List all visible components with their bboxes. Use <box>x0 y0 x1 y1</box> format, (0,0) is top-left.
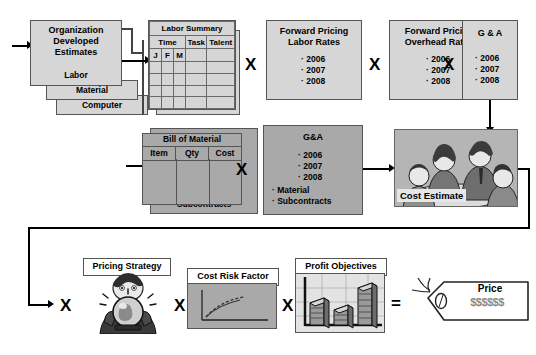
cost-estimate-label: Cost Estimate <box>397 189 466 202</box>
cost-out-v1 <box>528 168 530 228</box>
stack-connector-h2 <box>131 52 143 54</box>
card-title-line3: Estimates <box>31 47 121 58</box>
gna-top-title: G & A <box>463 28 517 39</box>
operator-multiply-2: X <box>369 55 380 75</box>
gna-mat-title: G&A <box>264 132 362 143</box>
stack-connector-h1 <box>122 28 132 30</box>
fp-labor-year-1: 2007 <box>301 65 325 76</box>
card-computer-label: Computer <box>57 100 147 110</box>
diagram-canvas: Computer Material Organization Developed… <box>0 0 536 355</box>
profit-objectives-chart <box>295 273 385 333</box>
bom-divider-1 <box>176 159 177 205</box>
gna-mat-year-0: 2006 <box>298 150 322 161</box>
fp-labor-year-2: 2008 <box>301 76 325 87</box>
gna-mat-item-1: Subcontracts <box>272 196 332 207</box>
cell-empty <box>186 49 207 62</box>
labor-summary-title: Labor Summary <box>150 22 235 36</box>
fp-labor-title-2: Labor Rates <box>267 37 361 48</box>
gna-mat-item-0: Material <box>272 185 332 196</box>
cost-out-h2 <box>28 227 530 229</box>
fp-labor-title-1: Forward Pricing <box>267 26 361 37</box>
gna-top-year-1: 2007 <box>475 64 499 75</box>
fortune-teller-crystal-ball-clipart <box>88 272 168 334</box>
operator-multiply-1: X <box>245 55 256 75</box>
box-forward-pricing-labor-rates: Forward Pricing Labor Rates 2006 2007 20… <box>266 20 362 100</box>
col-time: Time <box>150 36 186 49</box>
card-organization-developed-estimates: Organization Developed Estimates Labor <box>30 20 122 86</box>
bom-col-cost: Cost <box>209 147 241 160</box>
bom-title: Bill of Material <box>143 133 241 145</box>
operator-multiply-7: X <box>282 296 293 316</box>
cost-out-head <box>48 300 54 308</box>
price-tag-title: Price <box>455 283 525 294</box>
box-gna-material: G&A 2006 2007 2008 Material Subcontracts <box>263 125 363 215</box>
bom-header-row: Item Qty Cost <box>143 146 241 161</box>
operator-multiply-3: X <box>443 55 454 75</box>
gna-mat-year-1: 2007 <box>298 161 322 172</box>
bill-of-material-table: Bill of Material Item Qty Cost <box>142 133 242 205</box>
fp-labor-year-0: 2006 <box>301 54 325 65</box>
card-labor-label: Labor <box>31 70 121 80</box>
labor-summary-grid: Labor Summary Time Task Talent J F M <box>149 21 235 109</box>
bom-divider-2 <box>209 159 210 205</box>
cost-estimate-image: Cost Estimate <box>394 129 518 207</box>
cost-risk-factor-chart <box>187 283 277 329</box>
sub-f: F <box>162 49 174 62</box>
card-title-line1: Organization <box>31 25 121 36</box>
profit-bar-chart-icon <box>296 274 384 332</box>
risk-curve-icon <box>188 284 278 330</box>
cost-out-v2 <box>28 227 30 305</box>
sub-j: J <box>150 49 162 62</box>
gna-mat-to-cost-line <box>363 168 391 170</box>
bom-col-item: Item <box>143 147 176 160</box>
box-gna-top: G & A 2006 2007 2008 <box>462 20 518 100</box>
operator-equals: = <box>391 294 401 314</box>
gna-to-cost-estimate-line <box>489 100 491 129</box>
cell-empty <box>207 49 235 62</box>
gna-top-year-2: 2008 <box>475 75 499 86</box>
card-material-label: Material <box>47 85 137 95</box>
bom-col-qty: Qty <box>176 147 209 160</box>
fp-oh-year-2: 2008 <box>426 76 450 87</box>
input-arrow-line <box>12 45 28 47</box>
cost-out-h3 <box>28 304 50 306</box>
stack-connector-v1 <box>131 28 133 52</box>
col-talent: Talent <box>207 36 235 49</box>
card-title-line2: Developed <box>31 36 121 47</box>
operator-multiply-4: X <box>236 160 247 180</box>
labor-summary-table: Labor Summary Time Task Talent J F M <box>148 20 236 110</box>
operator-multiply-6: X <box>174 296 185 316</box>
gna-mat-year-2: 2008 <box>298 172 322 183</box>
sub-m: M <box>174 49 186 62</box>
gna-top-year-0: 2006 <box>475 53 499 64</box>
operator-multiply-5: X <box>60 296 71 316</box>
price-tag-value: $$$$$$ <box>452 296 522 308</box>
arrow-to-labor-summary-line <box>122 60 146 62</box>
col-task: Task <box>186 36 207 49</box>
